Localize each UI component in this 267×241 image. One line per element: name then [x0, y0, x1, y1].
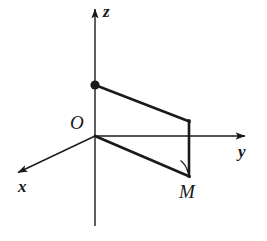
bottom-edge-line	[95, 136, 190, 177]
origin-label: O	[70, 113, 84, 132]
figure-canvas	[0, 0, 267, 241]
right-angle-marker	[181, 161, 189, 173]
z-axis-point-dot	[90, 80, 99, 89]
coordinate-system-figure: z y x O M	[0, 0, 267, 241]
y-axis-label: y	[238, 143, 246, 160]
top-edge-line	[95, 85, 190, 122]
z-axis-label: z	[103, 3, 110, 20]
x-axis-label: x	[18, 178, 27, 195]
x-axis-line	[18, 136, 95, 173]
point-m-label: M	[179, 182, 195, 201]
